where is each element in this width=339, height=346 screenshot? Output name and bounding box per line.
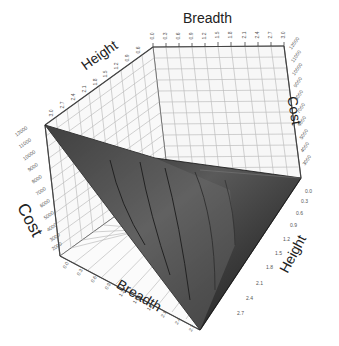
breadth-tick: 1.2 — [201, 33, 207, 40]
surface-chart — [0, 0, 339, 346]
height-tick: 1.2 — [283, 236, 290, 242]
breadth-tick: 0.9 — [188, 33, 194, 40]
height-tick: 0.9 — [290, 222, 297, 228]
height-tick: 0.6 — [135, 47, 141, 54]
breadth-tick: 3.0 — [280, 32, 286, 39]
height-tick: 2.7 — [237, 310, 244, 316]
height-tick: 3.0 — [48, 110, 54, 117]
height-tick: 2.1 — [256, 280, 263, 286]
back-wall-grid — [153, 46, 301, 178]
height-tick: 2.4 — [246, 295, 253, 301]
height-tick: 0.9 — [124, 55, 130, 62]
height-tick: 1.8 — [92, 79, 98, 86]
breadth-tick: 1.8 — [227, 32, 233, 39]
height-tick: 0.6 — [296, 210, 303, 216]
height-tick: 2.4 — [70, 94, 76, 101]
height-tick: 1.5 — [102, 71, 108, 78]
height-tick: 0.0 — [305, 188, 312, 194]
breadth-tick: 2.4 — [254, 32, 260, 39]
breadth-tick: 0.3 — [162, 33, 168, 40]
height-tick: 2.7 — [59, 102, 65, 109]
height-tick: 1.8 — [266, 264, 273, 270]
breadth-tick: 1.5 — [214, 32, 220, 39]
height-tick: 1.5 — [275, 250, 282, 256]
breadth-tick: 0.6 — [175, 33, 181, 40]
height-tick: 0.3 — [301, 198, 308, 204]
breadth-tick: 2.7 — [267, 32, 273, 39]
breadth-tick: 0.0 — [149, 33, 155, 40]
height-tick: 2.1 — [81, 86, 87, 93]
axis-title-breadth-top: Breadth — [183, 10, 232, 26]
height-tick: 1.2 — [113, 63, 119, 70]
breadth-tick: 2.1 — [241, 32, 247, 39]
